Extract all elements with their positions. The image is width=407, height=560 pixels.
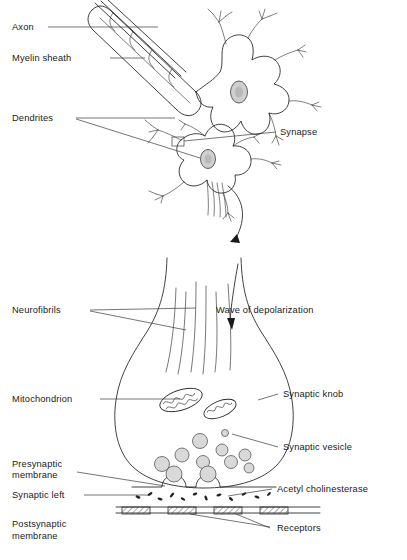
label-presynaptic-membrane-line2: membrane: [12, 470, 58, 480]
label-dendrites: Dendrites: [12, 113, 53, 123]
synaptic-knob-outline: [115, 258, 293, 488]
vesicle: [239, 449, 251, 461]
vesicle: [244, 463, 254, 473]
label-synaptic-cleft: Synaptic left: [12, 490, 65, 500]
synaptic-vesicle-leader: [232, 434, 278, 447]
neuron-network-panel: [48, 0, 321, 243]
receptor: [214, 507, 242, 514]
label-receptors: Receptors: [277, 523, 321, 533]
label-axon: Axon: [12, 22, 34, 32]
label-myelin-sheath: Myelin sheath: [12, 53, 71, 63]
dendrites-lower: [145, 120, 281, 221]
label-acetyl-cholinesterase: Acetyl cholinesterase: [277, 484, 368, 494]
neurofibrils-leader-2: [90, 311, 186, 330]
depolarization-arrowhead: [227, 318, 235, 330]
label-mitochondrion: Mitochondrion: [12, 394, 72, 404]
label-synaptic-vesicle: Synaptic vesicle: [283, 442, 352, 452]
neuron-cell-body-upper: [196, 35, 289, 134]
label-wave-of-depolarization: Wave of depolarization: [216, 305, 314, 315]
receptor: [122, 507, 150, 514]
receptors-leader-2: [236, 514, 270, 528]
vesicle: [216, 444, 228, 456]
label-postsynaptic-membrane-line2: membrane: [12, 531, 58, 541]
synaptic-knob-leader: [258, 394, 278, 400]
vesicle: [225, 456, 238, 469]
label-synaptic-knob: Synaptic knob: [283, 389, 343, 399]
vesicle: [193, 434, 208, 449]
fusing-vesicle: [166, 466, 182, 482]
label-presynaptic-membrane-line1: Presynaptic: [12, 459, 62, 469]
fusing-vesicle: [200, 466, 216, 482]
flow-arrowhead: [230, 234, 240, 243]
receptors-leader-1: [190, 514, 270, 527]
label-synapse: Synapse: [280, 127, 317, 137]
vesicle: [175, 448, 189, 462]
neuron-cell-body-lower: [177, 124, 251, 193]
receptor: [260, 507, 288, 514]
receptor: [168, 507, 196, 514]
neuron-synapse-figure: Axon Myelin sheath Dendrites Synapse Neu…: [0, 0, 407, 560]
mitochondrion-2: [201, 395, 239, 423]
vesicle-small: [222, 430, 229, 437]
figure-page: Axon Myelin sheath Dendrites Synapse Neu…: [0, 0, 407, 560]
dendrites-leader-2: [76, 119, 200, 158]
label-postsynaptic-membrane-line1: Postsynaptic: [12, 519, 67, 529]
label-neurofibrils: Neurofibrils: [12, 305, 61, 315]
acetyl-cholinesterase-leader: [228, 489, 272, 496]
neurofibrils-leader-1: [90, 308, 196, 310]
neurotransmitter-molecules: [135, 491, 271, 501]
mitochondrion-1: [157, 384, 205, 417]
